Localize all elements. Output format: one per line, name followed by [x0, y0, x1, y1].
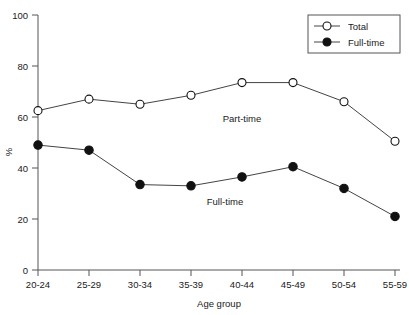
annotation-full-time: Full-time — [207, 196, 243, 207]
data-point — [391, 137, 399, 145]
data-point — [238, 173, 246, 181]
data-point — [289, 163, 297, 171]
x-tick-label-55-59: 55-59 — [383, 279, 407, 290]
data-point — [187, 182, 195, 190]
data-point — [289, 79, 297, 87]
legend-label-full-time: Full-time — [348, 37, 384, 48]
x-tick-label-25-29: 25-29 — [77, 279, 101, 290]
x-tick-label-35-39: 35-39 — [179, 279, 203, 290]
x-tick-label-30-34: 30-34 — [128, 279, 152, 290]
y-axis-title: % — [3, 147, 14, 156]
annotation-part-time: Part-time — [223, 113, 262, 124]
y-tick-label-60: 60 — [17, 112, 28, 123]
y-tick-label-20: 20 — [17, 214, 28, 225]
legend-label-total: Total — [348, 21, 368, 32]
chart-legend: Total Full-time — [308, 15, 400, 53]
chart-container: 100 80 60 40 20 0 % 20-24 25-29 30-34 35… — [0, 0, 409, 315]
data-point — [34, 107, 42, 115]
x-tick-label-40-44: 40-44 — [230, 279, 254, 290]
x-tick-label-45-49: 45-49 — [281, 279, 305, 290]
data-point — [391, 212, 399, 220]
y-tick-label-100: 100 — [12, 10, 28, 21]
line-chart: 100 80 60 40 20 0 % 20-24 25-29 30-34 35… — [0, 0, 409, 315]
data-point — [340, 184, 348, 192]
y-tick-label-80: 80 — [17, 61, 28, 72]
x-axis-title: Age group — [197, 298, 241, 309]
data-point — [187, 91, 195, 99]
y-tick-label-0: 0 — [23, 265, 28, 276]
filled-circle-icon — [323, 38, 331, 46]
open-circle-icon — [323, 22, 331, 30]
data-point — [340, 98, 348, 106]
data-point — [85, 95, 93, 103]
data-point — [136, 180, 144, 188]
data-point — [136, 100, 144, 108]
data-point — [85, 146, 93, 154]
data-point — [34, 141, 42, 149]
x-tick-label-20-24: 20-24 — [26, 279, 50, 290]
data-point — [238, 79, 246, 87]
y-tick-label-40: 40 — [17, 163, 28, 174]
x-tick-label-50-54: 50-54 — [332, 279, 356, 290]
